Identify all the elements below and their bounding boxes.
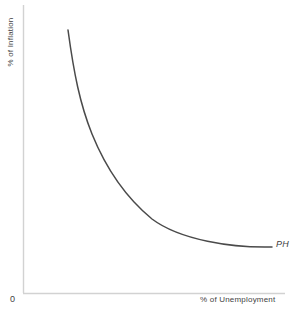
origin-label: 0 [10,295,15,304]
phillips-curve-chart: % of Inflation % of Unemployment 0 PH [0,0,300,313]
chart-plot-area [0,0,300,313]
y-axis-label: % of Inflation [7,7,15,77]
curve-series-label: PH [276,240,289,249]
phillips-curve-line [68,30,272,247]
x-axis-label: % of Unemployment [200,296,275,304]
